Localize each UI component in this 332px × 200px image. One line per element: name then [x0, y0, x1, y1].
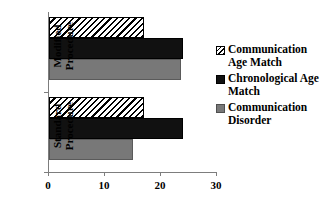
- x-tick-20: [160, 172, 161, 176]
- x-tick-0: [48, 172, 49, 176]
- legend-label-communication-disorder: Communication Disorder: [228, 101, 307, 126]
- x-axis-line: [48, 172, 217, 173]
- legend-label-communication-age-match: Communication Age Match: [228, 43, 307, 68]
- gray-swatch-icon: [216, 104, 225, 113]
- hatched-swatch-icon: [216, 46, 225, 55]
- y-tick-group-divider: [44, 92, 48, 93]
- legend-label-chronological-age-match: Chronological Age Match: [228, 72, 319, 97]
- black-swatch-icon: [216, 75, 225, 84]
- legend-item-chronological-age-match: Chronological Age Match: [216, 72, 332, 97]
- plot-area: 0 10 20 30 Modified Procedure Standard P…: [48, 12, 216, 172]
- x-tick-label-20: 20: [148, 179, 172, 191]
- chart-legend: Communication Age Match Chronological Ag…: [216, 43, 332, 130]
- legend-item-communication-age-match: Communication Age Match: [216, 43, 332, 68]
- x-tick-30: [216, 172, 217, 176]
- legend-item-communication-disorder: Communication Disorder: [216, 101, 332, 126]
- category-label-standard-procedure: Standard Procedure: [51, 88, 77, 164]
- x-tick-label-30: 30: [204, 179, 228, 191]
- y-tick-bottom: [44, 172, 48, 173]
- bar-chart: 0 10 20 30 Modified Procedure Standard P…: [0, 0, 332, 200]
- x-tick-label-10: 10: [92, 179, 116, 191]
- x-tick-label-0: 0: [36, 179, 60, 191]
- x-tick-10: [104, 172, 105, 176]
- category-label-modified-procedure: Modified Procedure: [51, 8, 77, 84]
